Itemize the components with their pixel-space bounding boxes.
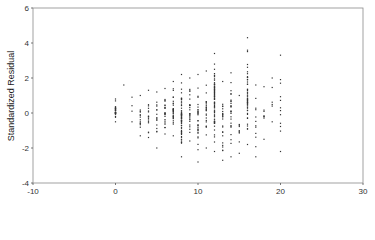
data-point	[272, 77, 273, 78]
data-point	[214, 90, 215, 91]
data-point	[214, 122, 215, 123]
data-point	[222, 114, 223, 115]
data-point	[230, 127, 231, 128]
data-point	[280, 96, 281, 97]
data-point	[214, 99, 215, 100]
data-point	[197, 74, 198, 75]
data-point	[156, 114, 157, 115]
data-point	[197, 149, 198, 150]
data-point	[222, 150, 223, 151]
data-point	[189, 109, 190, 110]
data-point	[115, 121, 116, 122]
data-point	[206, 147, 207, 148]
data-point	[272, 87, 273, 88]
data-point	[115, 98, 116, 99]
data-point	[280, 126, 281, 127]
data-point	[140, 124, 141, 125]
data-point	[255, 127, 256, 128]
data-point	[247, 79, 248, 80]
data-point	[189, 132, 190, 133]
data-point	[189, 90, 190, 91]
data-point	[222, 145, 223, 146]
data-point	[206, 114, 207, 115]
data-point	[214, 97, 215, 98]
data-point	[214, 141, 215, 142]
data-point	[230, 119, 231, 120]
y-tick-label: 0	[25, 109, 30, 118]
data-point	[247, 103, 248, 104]
data-point	[247, 89, 248, 90]
data-point	[181, 111, 182, 112]
data-point	[263, 111, 264, 112]
data-point	[247, 93, 248, 94]
data-point	[239, 95, 240, 96]
data-point	[173, 105, 174, 106]
data-point	[189, 118, 190, 119]
data-point	[206, 126, 207, 127]
data-point	[181, 98, 182, 99]
data-point	[189, 104, 190, 105]
data-point	[214, 106, 215, 107]
data-point	[280, 131, 281, 132]
data-point	[239, 153, 240, 154]
data-point	[156, 102, 157, 103]
data-point	[197, 104, 198, 105]
data-point	[206, 110, 207, 111]
data-point	[206, 105, 207, 106]
data-point	[197, 127, 198, 128]
data-point	[230, 72, 231, 73]
data-point	[189, 77, 190, 78]
data-point	[197, 97, 198, 98]
data-point	[230, 116, 231, 117]
data-point	[280, 151, 281, 152]
data-point	[140, 135, 141, 136]
data-point	[181, 125, 182, 126]
data-point	[247, 117, 248, 118]
data-point	[247, 114, 248, 115]
data-point	[222, 104, 223, 105]
data-point	[280, 55, 281, 56]
data-point	[239, 125, 240, 126]
data-point	[189, 117, 190, 118]
data-point	[280, 110, 281, 111]
data-point	[189, 126, 190, 127]
data-point	[181, 92, 182, 93]
data-point	[272, 102, 273, 103]
data-point	[197, 111, 198, 112]
data-point	[222, 125, 223, 126]
x-tick-label: 10	[194, 187, 203, 196]
data-point	[156, 109, 157, 110]
x-tick-label: 20	[276, 187, 285, 196]
data-point	[115, 116, 116, 117]
data-point	[181, 102, 182, 103]
data-point	[164, 121, 165, 122]
data-point	[189, 115, 190, 116]
data-point	[181, 108, 182, 109]
data-point	[156, 128, 157, 129]
data-point	[230, 123, 231, 124]
data-point	[181, 133, 182, 134]
data-point	[214, 104, 215, 105]
data-point	[230, 113, 231, 114]
data-point	[148, 108, 149, 109]
data-point	[173, 112, 174, 113]
data-point	[255, 108, 256, 109]
data-point	[272, 106, 273, 107]
data-point	[222, 131, 223, 132]
x-tick-label: -10	[27, 187, 39, 196]
data-point	[280, 83, 281, 84]
data-point	[214, 80, 215, 81]
data-point	[173, 81, 174, 82]
data-point	[164, 127, 165, 128]
data-point	[206, 70, 207, 71]
data-point	[197, 107, 198, 108]
data-point	[148, 119, 149, 120]
data-point	[214, 64, 215, 65]
data-point	[189, 94, 190, 95]
data-point	[247, 50, 248, 51]
data-point	[247, 71, 248, 72]
data-point	[247, 81, 248, 82]
data-point	[222, 106, 223, 107]
data-point	[148, 105, 149, 106]
data-point	[164, 133, 165, 134]
